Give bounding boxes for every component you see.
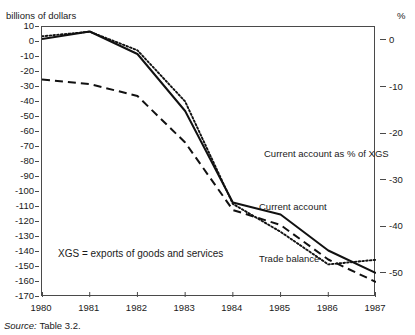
x-tick-1985: 1985 — [269, 302, 290, 313]
left-tick-12: -110 — [0, 200, 34, 211]
left-tickmark-12 — [35, 206, 39, 207]
left-tickmark-5 — [35, 101, 39, 102]
annotation-current-account-pct: Current account as % of XGS — [264, 148, 389, 159]
left-tick-2: -10 — [0, 50, 34, 61]
right-tickmark-2 — [380, 133, 386, 134]
left-tick-17: -160 — [0, 275, 34, 286]
left-tickmark-1 — [35, 41, 39, 42]
right-tickmark-1 — [380, 86, 386, 87]
right-tick-1: -10 — [389, 81, 403, 92]
left-tickmark-4 — [35, 86, 39, 87]
right-tickmark-0 — [380, 39, 386, 40]
left-tick-14: -130 — [0, 230, 34, 241]
right-tickmark-5 — [380, 272, 386, 273]
x-tick-1980: 1980 — [30, 302, 51, 313]
right-axis-unit-label: % — [397, 10, 405, 21]
x-tick-1982: 1982 — [126, 302, 147, 313]
left-tickmark-7 — [35, 131, 39, 132]
left-tick-1: 0 — [0, 35, 34, 46]
left-tickmark-15 — [35, 251, 39, 252]
left-tickmark-8 — [35, 146, 39, 147]
left-tick-4: -30 — [0, 80, 34, 91]
left-tickmark-14 — [35, 236, 39, 237]
note-xgs-definition: XGS = exports of goods and services — [58, 248, 223, 259]
right-tickmark-4 — [380, 226, 386, 227]
right-tick-0: 0 — [389, 34, 394, 45]
left-tick-6: -50 — [0, 110, 34, 121]
left-tickmark-16 — [35, 266, 39, 267]
left-tick-11: -100 — [0, 185, 34, 196]
x-tick-1987: 1987 — [364, 302, 385, 313]
left-tickmark-2 — [35, 56, 39, 57]
left-tick-9: -80 — [0, 155, 34, 166]
source-line: Source: Table 3.2. — [4, 320, 81, 331]
source-value: Table 3.2. — [39, 320, 80, 331]
right-tick-4: -40 — [389, 220, 403, 231]
right-tickmark-3 — [380, 179, 386, 180]
x-tick-1981: 1981 — [78, 302, 99, 313]
x-tick-1983: 1983 — [174, 302, 195, 313]
left-tick-5: -40 — [0, 95, 34, 106]
left-tickmark-13 — [35, 221, 39, 222]
left-tick-15: -140 — [0, 245, 34, 256]
left-tick-8: -70 — [0, 140, 34, 151]
left-tickmark-18 — [35, 296, 39, 297]
left-tick-13: -120 — [0, 215, 34, 226]
left-tickmark-0 — [35, 26, 39, 27]
left-tick-18: -170 — [0, 290, 34, 301]
right-tick-3: -30 — [389, 174, 403, 185]
left-tickmark-9 — [35, 161, 39, 162]
x-tick-1986: 1986 — [317, 302, 338, 313]
x-tick-1984: 1984 — [221, 302, 242, 313]
left-tickmark-11 — [35, 191, 39, 192]
left-tick-10: -90 — [0, 170, 34, 181]
left-tick-7: -60 — [0, 125, 34, 136]
right-tick-2: -20 — [389, 127, 403, 138]
annotation-current-account: Current account — [259, 201, 327, 212]
left-tick-3: -20 — [0, 65, 34, 76]
left-tick-16: -150 — [0, 260, 34, 271]
left-tickmark-10 — [35, 176, 39, 177]
source-label: Source: — [4, 320, 37, 331]
left-tickmark-6 — [35, 116, 39, 117]
left-tickmark-3 — [35, 71, 39, 72]
left-tickmark-17 — [35, 281, 39, 282]
figure-container: Figure billions of dollars % 100-10-20-3… — [0, 0, 415, 335]
annotation-trade-balance: Trade balance — [259, 253, 319, 264]
right-tick-5: -50 — [389, 267, 403, 278]
left-tick-0: 10 — [0, 20, 34, 31]
